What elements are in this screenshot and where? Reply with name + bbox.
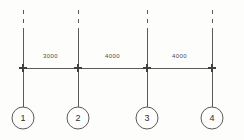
drawing-vector-layer [0,0,244,140]
dimension-tick-mark [74,64,82,72]
dimension-tick-mark [208,64,216,72]
dimension-label-2: 4000 [105,52,120,60]
dimension-label-3: 4000 [172,52,187,60]
grid-bubble-label-2: 2 [75,114,80,123]
grid-bubble-label-4: 4 [209,114,214,123]
dimension-tick-mark [143,64,151,72]
dimension-label-1: 3000 [43,52,58,60]
grid-bubble-label-3: 3 [144,114,149,123]
grid-bubble-label-1: 1 [20,114,25,123]
grid-line-drawing: 3000 4000 4000 1 2 3 4 [0,0,244,140]
dimension-tick-mark [19,64,27,72]
